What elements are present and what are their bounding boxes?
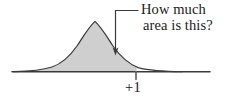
callout-line-1: How much [141, 2, 213, 18]
callout-leader-line [116, 11, 139, 50]
normal-curve-figure: How much area is this? +1 [0, 0, 225, 108]
callout-line-2: area is this? [141, 18, 213, 34]
x-axis-tick-label: +1 [125, 80, 141, 96]
shaded-area-region [14, 21, 136, 71]
callout-annotation-text: How much area is this? [141, 2, 213, 33]
